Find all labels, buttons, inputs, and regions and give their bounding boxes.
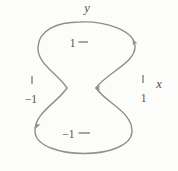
y-axis-label: y	[82, 1, 90, 15]
curve-direction-arrow-top-right	[130, 38, 137, 46]
curve-plot: y x 1 −1 −1 1	[0, 0, 178, 171]
tick-label-y-1: 1	[70, 37, 76, 49]
x-axis-label: x	[155, 77, 162, 91]
tick-label-x-neg1: −1	[25, 93, 37, 105]
tick-label-y-neg1: −1	[62, 128, 74, 140]
parametric-curve-figure: y x 1 −1 −1 1	[0, 0, 178, 171]
tick-label-x-1: 1	[141, 92, 147, 104]
